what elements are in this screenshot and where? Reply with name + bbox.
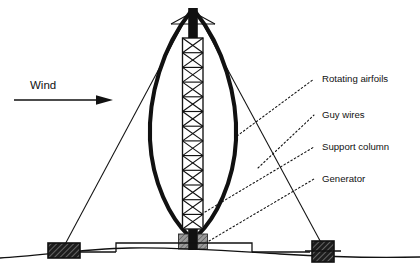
column-bottom-shaft (188, 229, 198, 250)
wind-label: Wind (30, 79, 56, 91)
column-top-shaft (188, 8, 198, 38)
lattice-support-column (183, 8, 204, 250)
callout-label-support-column: Support column (322, 141, 389, 152)
callout-label-rotating-airfoils: Rotating airfoils (322, 73, 388, 84)
callout-label-generator: Generator (322, 173, 366, 184)
callout-label-guy-wires: Guy wires (322, 109, 365, 120)
figure-background (0, 0, 420, 280)
diagram-canvas: Wind (0, 0, 420, 280)
guy-wire-anchor-left (48, 243, 80, 258)
wind-turbine-figure: Wind (0, 0, 420, 280)
